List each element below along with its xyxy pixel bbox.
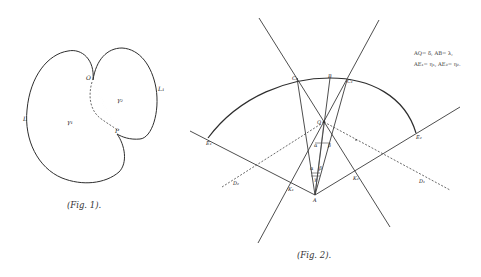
- label-K2: K₂: [352, 175, 359, 181]
- label-D2: D₂: [232, 180, 239, 186]
- arc-E1-E2: [208, 78, 416, 138]
- label-L1: L₁: [157, 85, 164, 92]
- dashed-line-Q-D1: [324, 122, 450, 190]
- annotation-line-1: AQ= δ, AB= λ,: [413, 50, 453, 56]
- label-D1: D₁: [418, 178, 425, 184]
- label-Q: Q: [317, 119, 321, 125]
- label-C1: C₁: [347, 78, 353, 84]
- label-A: A: [312, 197, 317, 203]
- label-E1: E₁: [205, 140, 212, 146]
- line-A-Q: [315, 122, 324, 195]
- label-L: L: [22, 115, 27, 122]
- curve-L-mask: [93, 80, 117, 134]
- label-gamma1: γ₁: [67, 118, 73, 126]
- label-gamma2: γ₂: [117, 96, 124, 104]
- line-A-C2: [297, 78, 315, 195]
- label-C2: C₂: [292, 75, 298, 81]
- label-E2: E₂: [415, 134, 422, 140]
- line-through-Q-right: [258, 20, 379, 243]
- annotation-line-2: AE₁= η₁, AE₂= η₂.: [413, 61, 461, 68]
- figure-1: O P L L₁ γ₁ γ₂ (Fig. 1).: [22, 48, 164, 210]
- label-P: P: [114, 127, 120, 134]
- point-Q: [323, 121, 326, 124]
- diagram-canvas: O P L L₁ γ₁ γ₂ (Fig. 1). AQ= δ, AB= λ, A…: [0, 0, 481, 277]
- curve-L1: [93, 48, 157, 139]
- figure-2: AQ= δ, AB= λ, AE₁= η₁, AE₂= η₂. C₂ B C₁ …: [190, 18, 461, 260]
- label-gamma: γ: [314, 176, 317, 183]
- label-O: O: [86, 74, 91, 81]
- label-alpha-lower: α: [310, 165, 314, 171]
- line-A-C1: [315, 80, 347, 195]
- figure-1-caption: (Fig. 1).: [67, 200, 101, 210]
- ray-A-E2: [315, 107, 460, 195]
- label-beta-lower: β: [318, 165, 322, 172]
- label-beta-upper: β: [327, 142, 331, 149]
- label-K1: K₁: [287, 186, 294, 192]
- point-dashed-mark: [355, 139, 357, 141]
- figure-2-caption: (Fig. 2).: [297, 250, 331, 260]
- label-B: B: [327, 73, 332, 79]
